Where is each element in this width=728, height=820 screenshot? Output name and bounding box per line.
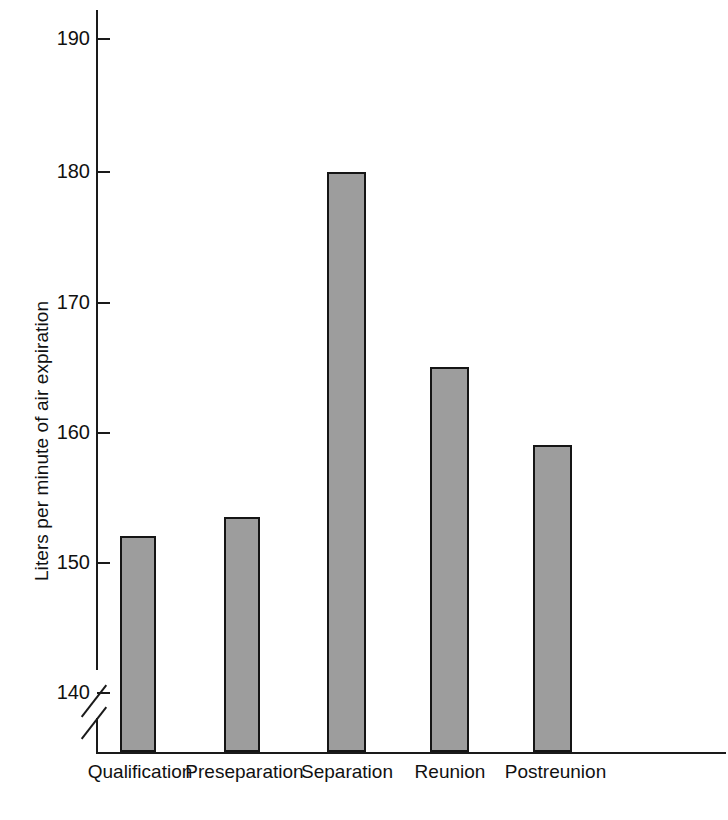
y-tick-label-170: 170 [28, 292, 90, 312]
bar-separation [327, 172, 366, 752]
bar-postreunion [533, 445, 572, 752]
y-tick-label-150: 150 [28, 552, 90, 572]
bar-reunion [430, 367, 469, 752]
y-tick-150: 150 [0, 552, 90, 572]
bar-chart: Liters per minute of air expiration 190 … [0, 0, 728, 820]
y-tick-label-190: 190 [28, 28, 90, 48]
y-tick-180: 180 [0, 161, 90, 181]
y-tick-mark-170 [97, 302, 110, 304]
bar-qualification [120, 536, 156, 752]
y-axis-line [96, 10, 98, 670]
y-tick-190: 190 [0, 28, 90, 48]
bar-preseparation [224, 517, 260, 753]
x-axis-line [96, 752, 726, 754]
y-tick-140: 140 [0, 682, 90, 702]
x-tick-label-postreunion: Postreunion [478, 760, 633, 784]
y-axis-line-lower [96, 718, 98, 754]
y-tick-label-160: 160 [28, 422, 90, 442]
y-tick-label-140: 140 [28, 682, 90, 702]
y-tick-mark-150 [97, 562, 110, 564]
y-tick-mark-160 [97, 432, 110, 434]
y-tick-label-180: 180 [28, 161, 90, 181]
y-tick-mark-180 [97, 171, 110, 173]
y-tick-170: 170 [0, 292, 90, 312]
y-tick-mark-140 [97, 692, 110, 694]
y-tick-mark-190 [97, 38, 110, 40]
y-tick-160: 160 [0, 422, 90, 442]
